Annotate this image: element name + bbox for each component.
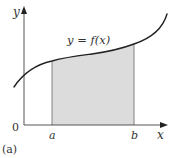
- curve-label: y = f(x): [66, 33, 110, 47]
- x-axis-label: x: [157, 128, 164, 142]
- y-axis-label: y: [12, 5, 20, 19]
- area-under-curve-diagram: y y = f(x) 0 a b x (a): [0, 0, 173, 158]
- bound-label-b: b: [131, 129, 138, 142]
- panel-label: (a): [2, 143, 17, 156]
- origin-label: 0: [12, 121, 19, 134]
- y-axis-arrow-icon: [21, 6, 27, 14]
- bound-label-a: a: [49, 129, 56, 142]
- shaded-area-region: [52, 44, 134, 125]
